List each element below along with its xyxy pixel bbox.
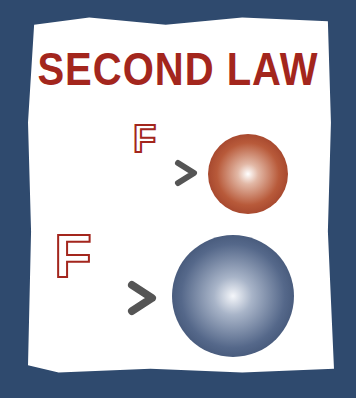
large-ball [172, 235, 294, 357]
force-label-small: F [133, 118, 156, 161]
small-ball [208, 134, 288, 214]
arrow-large-icon [28, 280, 158, 316]
arrow-small-icon [120, 158, 200, 188]
title: SECOND LAW [0, 44, 356, 96]
